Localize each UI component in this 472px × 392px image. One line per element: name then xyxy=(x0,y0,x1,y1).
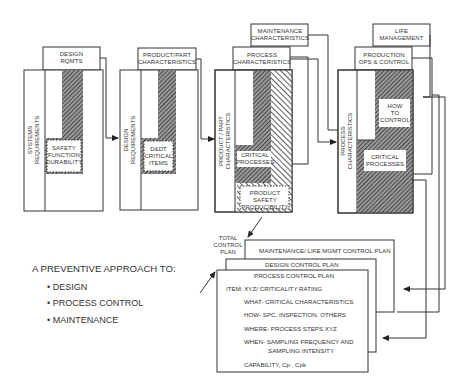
design-control-plan: DESIGN CONTROL PLAN xyxy=(265,261,338,268)
plan-item-when: WHEN- SAMPLING FREQUENCY AND xyxy=(244,338,354,345)
maintenance-characteristics-header: MAINTENANCE CHARACTERISTICS xyxy=(249,28,311,42)
production-ops-control-header: PRODUCTION OPS & CONTROL xyxy=(353,52,415,66)
process-characteristics-header: PROCESS CHARACTERISTICS xyxy=(231,52,293,66)
how-to-control-box: HOW TO CONTROL xyxy=(378,103,412,124)
approach-bullet-process-control: • PROCESS CONTROL xyxy=(47,298,143,308)
product-part-characteristics-header: PRODUCT/PART CHARACTERISTICS xyxy=(136,52,198,66)
plan-item-where: WHERE- PROCESS STEPS XYZ xyxy=(244,325,337,332)
design-requirements-label: DESIGN REQUIREMENTS xyxy=(123,102,137,178)
plan-item-criticality: ITEM: XYZ/ CRITICALITY RATING xyxy=(226,285,322,292)
total-control-plan-label: TOTAL CONTROL PLAN xyxy=(210,235,246,256)
safety-function-durability-box: SAFETY FUNCTION DURABILITY xyxy=(46,145,82,166)
plan-item-how: HOW- SPC, INSPECTION, OTHERS xyxy=(244,311,346,318)
approach-title: A PREVENTIVE APPROACH TO: xyxy=(32,263,176,274)
critical-processes-box: CRITICAL PROCESSES xyxy=(236,152,274,166)
process-characteristics-label: PROCESS CHARACTERISTICS xyxy=(340,103,354,179)
plan-item-capability: CAPABILITY, Cp , Cpk xyxy=(244,361,306,368)
design-rqmts-header: DESIGN RQMTS xyxy=(43,51,100,65)
product-part-characteristics-label: PRODUCT / PART CHARACTERISTICS xyxy=(218,101,232,181)
ddt-critical-items-box: D&DT CRITICAL ITEMS xyxy=(143,146,174,167)
systems-requirements-label: SYSTEMS REQUIREMENTS xyxy=(27,102,41,178)
approach-bullet-maintenance: • MAINTENANCE xyxy=(47,315,118,325)
maintenance-life-mgmt-control-plan: MAINTENANCE/ LIFE MGMT CONTROL PLAN xyxy=(259,247,391,254)
process-control-plan: PROCESS CONTROL PLAN xyxy=(254,272,334,279)
life-management-header: LIFE MANAGEMENT xyxy=(373,28,430,42)
approach-bullet-design: • DESIGN xyxy=(47,282,87,292)
plan-item-when-cont: SAMPLING INTENSITY xyxy=(268,347,334,354)
product-safety-producibility-box: PRODUCT SAFETY PRODUCIBILITY xyxy=(239,190,291,211)
plan-item-what: WHAT- CRITICAL CHARACTERISTICS xyxy=(244,298,353,305)
critical-processes-box-2: CRITICAL PROCESSES xyxy=(364,154,406,168)
